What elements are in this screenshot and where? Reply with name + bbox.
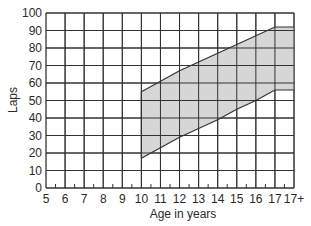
svg-text:6: 6 <box>62 192 69 206</box>
svg-text:40: 40 <box>29 111 43 125</box>
svg-text:11: 11 <box>154 192 167 206</box>
svg-text:12: 12 <box>173 192 187 206</box>
svg-text:50: 50 <box>29 94 43 108</box>
svg-text:13: 13 <box>192 192 206 206</box>
svg-text:60: 60 <box>29 76 43 90</box>
svg-text:0: 0 <box>35 181 42 195</box>
svg-text:10: 10 <box>135 192 149 206</box>
range-area-chart: 56789101112131415161717+ 010203040506070… <box>0 0 311 226</box>
svg-text:80: 80 <box>29 41 43 55</box>
svg-text:17: 17 <box>268 192 282 206</box>
svg-text:70: 70 <box>29 59 43 73</box>
svg-text:7: 7 <box>81 192 88 206</box>
svg-text:15: 15 <box>230 192 244 206</box>
svg-text:14: 14 <box>211 192 225 206</box>
svg-text:10: 10 <box>29 164 43 178</box>
svg-text:17+: 17+ <box>284 192 304 206</box>
y-axis-ticks: 0102030405060708090100 <box>22 6 42 195</box>
y-axis-label: Laps <box>6 87 20 113</box>
x-axis-ticks: 56789101112131415161717+ <box>43 184 305 206</box>
svg-text:90: 90 <box>29 24 43 38</box>
svg-text:100: 100 <box>22 6 42 20</box>
svg-text:20: 20 <box>29 146 43 160</box>
svg-text:16: 16 <box>249 192 263 206</box>
svg-text:9: 9 <box>119 192 126 206</box>
svg-text:8: 8 <box>100 192 107 206</box>
svg-text:5: 5 <box>43 192 50 206</box>
svg-text:30: 30 <box>29 129 43 143</box>
x-axis-label: Age in years <box>150 207 217 221</box>
